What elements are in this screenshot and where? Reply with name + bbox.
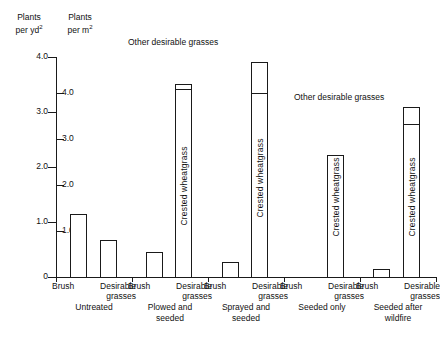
y-tick-label-left-0: 0	[24, 272, 48, 281]
x-group-name-wildfire: Seeded after	[356, 302, 440, 312]
y-tick-label-left-2: 2.0	[24, 162, 48, 171]
x-label-untreated-brush: Brush	[52, 281, 92, 291]
x-group-sprayed: Brush Desirable grasses Sprayed and seed…	[204, 281, 288, 323]
annotation-wildfire-other-grasses: Other desirable grasses	[294, 92, 384, 102]
x-group-plowed-categories: Brush Desirable grasses	[128, 281, 212, 301]
x-group-sprayed-categories: Brush Desirable grasses	[204, 281, 288, 301]
bar-plowed-brush	[146, 252, 163, 278]
x-group-seeded-only-categories: Brush Desirable grasses	[280, 281, 364, 301]
plot-area: Crested wheatgrass Other desirable grass…	[56, 40, 437, 278]
annotation-plowed-other-grasses: Other desirable grasses	[128, 37, 218, 47]
y-axis-right-title-line2: per m2	[55, 22, 105, 35]
y-axis-right-title: Plants per m2	[55, 12, 105, 35]
x-group-untreated-categories: Brush Desirable grasses	[52, 281, 136, 301]
x-group-seeded-only: Brush Desirable grasses Seeded only	[280, 281, 364, 312]
y-tick-label-left-3: 3.0	[24, 107, 48, 116]
segment-divider-sprayed	[251, 93, 268, 94]
y-axis-left-title-line1: Plants	[4, 12, 54, 22]
x-axis-labels: Brush Desirable grasses Untreated Brush …	[56, 281, 437, 338]
x-group-name-untreated: Untreated	[52, 302, 136, 312]
x-label-sprayed-brush: Brush	[204, 281, 244, 291]
bar-untreated-brush	[70, 214, 87, 278]
bar-sprayed-brush	[222, 262, 239, 278]
y-axis-right-title-line1: Plants	[55, 12, 105, 22]
x-group-name-wildfire-line2: wildfire	[356, 313, 440, 323]
y-axis-left-title-line2: per yd2	[4, 22, 54, 35]
x-group-name-plowed: Plowed and	[128, 302, 212, 312]
x-group-plowed: Brush Desirable grasses Plowed and seede…	[128, 281, 212, 323]
bar-wildfire-brush	[373, 269, 390, 278]
bar-wildfire-grasses: Crested wheatgrass	[403, 107, 420, 278]
x-group-untreated: Brush Desirable grasses Untreated	[52, 281, 136, 312]
segment-divider-wildfire	[403, 124, 420, 125]
x-group-name-sprayed-line2: seeded	[204, 313, 288, 323]
bar-plowed-grasses: Crested wheatgrass	[175, 84, 192, 278]
bar-untreated-grasses	[100, 240, 117, 278]
x-label-seeded-only-brush: Brush	[280, 281, 320, 291]
x-label-wildfire-brush: Brush	[356, 281, 396, 291]
x-group-name-seeded-only: Seeded only	[280, 302, 364, 312]
x-label-plowed-brush: Brush	[128, 281, 168, 291]
x-label-wildfire-grasses: Desirable grasses	[400, 281, 440, 301]
x-group-name-plowed-line2: seeded	[128, 313, 212, 323]
bar-label-seeded-only-crested: Crested wheatgrass	[331, 157, 341, 236]
bar-label-plowed-crested: Crested wheatgrass	[179, 146, 189, 225]
segment-divider-plowed	[175, 89, 192, 90]
x-group-name-sprayed: Sprayed and	[204, 302, 288, 312]
y-tick-label-left-4: 4.0	[24, 52, 48, 61]
x-group-wildfire-categories: Brush Desirable grasses	[356, 281, 440, 301]
x-group-wildfire: Brush Desirable grasses Seeded after wil…	[356, 281, 440, 323]
bar-sprayed-grasses: Crested wheatgrass	[251, 62, 268, 278]
y-axis-left-title: Plants per yd2	[4, 12, 54, 35]
bar-seeded-only-grasses: Crested wheatgrass	[327, 155, 344, 278]
bar-label-wildfire-crested: Crested wheatgrass	[407, 157, 417, 236]
bar-label-sprayed-crested: Crested wheatgrass	[255, 138, 265, 217]
y-tick-label-left-1: 1.0	[24, 217, 48, 226]
